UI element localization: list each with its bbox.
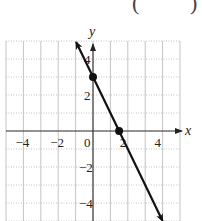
x-tick-label: 4 [155, 135, 162, 150]
x-tick-label: −4 [15, 135, 29, 150]
x-intercept-point [115, 127, 123, 135]
y-tick-label: −2 [79, 160, 93, 175]
y-axis-label: y [87, 24, 96, 39]
coordinate-plane: −4−2024−4−224 x y [0, 0, 202, 221]
axes [6, 44, 182, 221]
y-intercept-point [89, 73, 97, 81]
x-tick-label: −2 [50, 135, 64, 150]
y-tick-label: 2 [84, 88, 91, 103]
x-tick-label: 0 [84, 135, 91, 150]
x-axis-label: x [184, 123, 192, 138]
y-tick-label: −4 [79, 196, 93, 211]
